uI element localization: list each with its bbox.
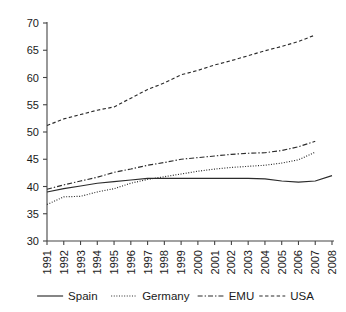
- y-tick-label: 45: [27, 153, 39, 165]
- y-tick-label: 60: [27, 72, 39, 84]
- x-tick-label: 1999: [175, 250, 187, 274]
- legend-label-germany: Germany: [142, 290, 190, 302]
- legend-label-spain: Spain: [68, 290, 97, 302]
- x-tick-label: 2003: [242, 250, 254, 274]
- y-tick-label: 55: [27, 99, 39, 111]
- x-tick-label: 2006: [292, 250, 304, 274]
- series-line-emu: [47, 141, 315, 189]
- y-axis: 303540455055606570: [27, 17, 47, 247]
- series-line-spain: [47, 176, 332, 192]
- data-series-group: [47, 35, 332, 204]
- x-axis: 1991199219931994199519961997199819992000…: [41, 241, 338, 274]
- legend-label-usa: USA: [290, 290, 314, 302]
- x-tick-label: 1991: [41, 250, 53, 274]
- x-tick-label: 1994: [91, 250, 103, 274]
- x-tick-label: 1993: [75, 250, 87, 274]
- x-tick-label: 2001: [209, 250, 221, 274]
- y-tick-label: 30: [27, 235, 39, 247]
- x-tick-label: 1997: [142, 250, 154, 274]
- x-tick-label: 2005: [276, 250, 288, 274]
- series-line-usa: [47, 35, 315, 125]
- y-tick-label: 65: [27, 44, 39, 56]
- legend-label-emu: EMU: [229, 290, 255, 302]
- x-tick-label: 2008: [326, 250, 338, 274]
- x-tick-label: 2007: [309, 250, 321, 274]
- x-tick-label: 1998: [158, 250, 170, 274]
- x-tick-label: 1996: [125, 250, 137, 274]
- chart-legend: SpainGermanyEMUUSA: [37, 290, 314, 302]
- y-tick-label: 50: [27, 126, 39, 138]
- x-tick-label: 1992: [58, 250, 70, 274]
- y-tick-label: 35: [27, 208, 39, 220]
- y-tick-label: 40: [27, 181, 39, 193]
- x-tick-label: 2000: [192, 250, 204, 274]
- y-tick-label: 70: [27, 17, 39, 29]
- x-tick-label: 1995: [108, 250, 120, 274]
- chart-figure: 303540455055606570 199119921993199419951…: [0, 0, 346, 312]
- x-tick-label: 2002: [225, 250, 237, 274]
- line-chart: 303540455055606570 199119921993199419951…: [0, 0, 346, 312]
- x-tick-label: 2004: [259, 250, 271, 274]
